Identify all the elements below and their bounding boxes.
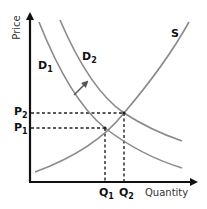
y-axis-label: Price [11,8,22,48]
supply-label: S [171,28,179,39]
q2-label: Q2 [119,187,134,198]
equilibrium-1 [103,126,106,129]
q1-label: Q1 [99,187,114,198]
demand-curve-d2 [60,20,182,141]
supply-curve [35,22,189,172]
x-axis-label: Quantity [145,187,188,198]
d2-label: D2 [82,51,97,62]
d1-label: D1 [38,60,53,71]
p2-label: P2 [14,106,28,117]
demand-curve-d1 [39,22,182,168]
p1-label: P1 [14,122,28,133]
shift-arrow [74,82,87,95]
equilibrium-2 [122,111,125,114]
